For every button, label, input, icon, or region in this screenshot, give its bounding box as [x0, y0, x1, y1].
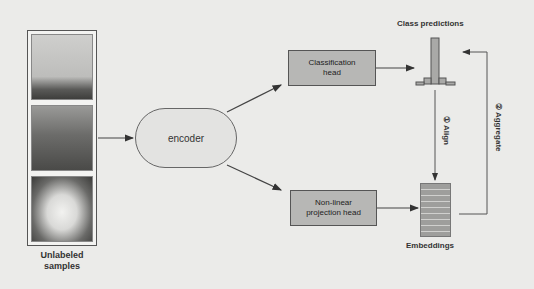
arrow-encoder-to-classification — [227, 85, 281, 112]
caption-line-1: Unlabeled — [18, 250, 106, 261]
embeddings-stack — [420, 183, 451, 237]
classification-head-label-2: head — [308, 68, 355, 78]
projection-head-node: Non-linear projection head — [290, 190, 377, 226]
encoder-label: encoder — [168, 133, 204, 144]
class-predictions-histogram — [416, 38, 455, 85]
align-step-label: ① Align — [442, 116, 451, 145]
arrow-encoder-to-projection — [227, 165, 281, 190]
sample-image-dog — [31, 176, 93, 242]
sample-image-jumping-animal — [31, 34, 93, 100]
arrow-aggregate — [459, 52, 487, 214]
class-predictions-label: Class predictions — [397, 19, 464, 28]
classification-head-node: Classification head — [288, 50, 376, 86]
encoder-node: encoder — [135, 108, 237, 168]
unlabeled-samples-caption: Unlabeled samples — [18, 250, 106, 272]
embeddings-label: Embeddings — [406, 241, 454, 250]
projection-head-label-1: Non-linear — [306, 198, 361, 208]
sample-image-cat — [31, 105, 93, 171]
aggregate-step-label: ② Aggregate — [494, 103, 503, 152]
classification-head-label-1: Classification — [308, 58, 355, 68]
unlabeled-samples-panel — [27, 30, 97, 246]
caption-line-2: samples — [18, 261, 106, 272]
projection-head-label-2: projection head — [306, 208, 361, 218]
